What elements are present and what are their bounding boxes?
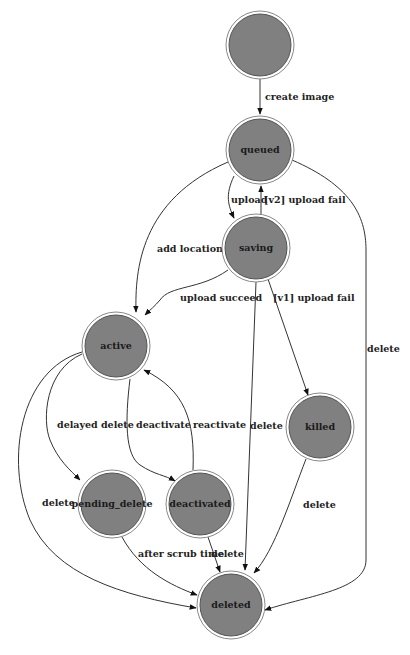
node-label-pending-delete: pending_delete	[72, 498, 153, 509]
node-killed[interactable]: killed	[286, 393, 354, 461]
node-label-active: active	[100, 340, 132, 351]
node-pending-delete[interactable]: pending_delete	[72, 470, 153, 538]
node-label-deactivated: deactivated	[169, 498, 231, 509]
edge-label-deactivated-delete: delete	[211, 548, 244, 559]
edge-label-deactivate: deactivate	[136, 419, 191, 430]
edge-label-queued-delete: delete	[367, 343, 400, 354]
node-label-saving: saving	[239, 242, 274, 253]
edge-label-delayed-delete: delayed delete	[57, 419, 134, 430]
node-label-killed: killed	[305, 421, 335, 432]
edge-label-active-delete: delete	[42, 497, 75, 508]
node-label-deleted: deleted	[211, 599, 251, 610]
edge-label-killed-delete: delete	[303, 499, 336, 510]
edge-label-v2-upload-fail: [v2] upload fail	[264, 194, 346, 205]
node-label-queued: queued	[240, 144, 280, 155]
state-diagram: create image upload [v2] upload fail add…	[0, 0, 410, 655]
edge-killed-delete	[254, 459, 306, 573]
node-active[interactable]: active	[82, 312, 150, 380]
edge-add-location	[136, 162, 228, 312]
edge-label-reactivate: reactivate	[193, 419, 246, 430]
edge-label-create-image: create image	[265, 91, 334, 102]
edge-delayed-delete	[46, 354, 82, 480]
edge-label-saving-delete: delete	[250, 420, 283, 431]
edge-after-scrub-time	[122, 537, 197, 595]
node-saving[interactable]: saving	[222, 214, 290, 282]
edge-deactivate	[127, 379, 175, 481]
edge-label-add-location: add location*	[157, 243, 228, 254]
node-queued[interactable]: queued	[226, 116, 294, 184]
node-deleted[interactable]: deleted	[197, 571, 265, 639]
edge-label-v1-upload-fail: [v1] upload fail	[273, 292, 355, 303]
edge-label-upload: upload	[231, 194, 268, 205]
edge-label-upload-succeed: upload succeed	[180, 292, 263, 303]
node-start[interactable]	[226, 11, 294, 79]
node-deactivated[interactable]: deactivated	[166, 470, 234, 538]
